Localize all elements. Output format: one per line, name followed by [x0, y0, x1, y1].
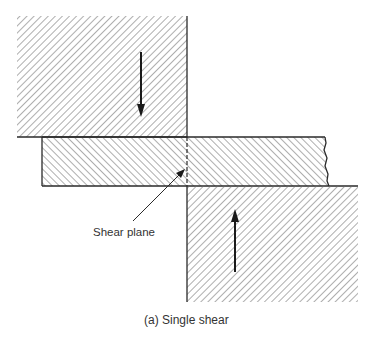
figure-caption: (a) Single shear [144, 313, 229, 327]
diagram-canvas: Shear plane (a) Single shear [0, 0, 382, 342]
top-block [17, 16, 187, 137]
middle-bar [42, 137, 358, 186]
bottom-block [187, 186, 358, 302]
shear-plane-label: Shear plane [93, 226, 155, 238]
